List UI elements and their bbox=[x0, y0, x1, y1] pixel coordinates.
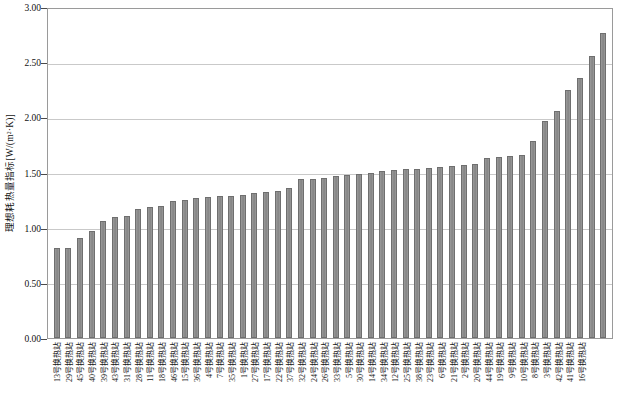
bar bbox=[519, 155, 525, 338]
y-axis-tickmark bbox=[41, 174, 47, 175]
x-axis-tick-label: 19号换热站 bbox=[494, 342, 505, 382]
x-axis-tick-label: 17号换热站 bbox=[260, 342, 271, 382]
bar bbox=[112, 217, 118, 338]
y-axis-tick-label: 0.50 bbox=[24, 279, 41, 289]
bar bbox=[310, 179, 316, 338]
x-axis-tick-label: 5号换热站 bbox=[342, 342, 353, 378]
x-axis-tick-label: 28号换热站 bbox=[132, 342, 143, 382]
bar-slot bbox=[574, 9, 586, 338]
bar-slot bbox=[353, 9, 365, 338]
bar bbox=[484, 158, 490, 338]
bar-slot bbox=[528, 9, 540, 338]
bar-slot bbox=[446, 9, 458, 338]
bar-chart: 理想耗热量指标[W/(m²·K)] 0.000.501.001.502.002.… bbox=[0, 0, 619, 411]
x-axis-tick: 46号换热站 bbox=[167, 340, 179, 411]
x-axis-tick: 11号换热站 bbox=[143, 340, 155, 411]
bar bbox=[449, 166, 455, 338]
bar-slot bbox=[272, 9, 284, 338]
bar-slot bbox=[86, 9, 98, 338]
bar-slot bbox=[284, 9, 296, 338]
x-axis-tick-label: 26号换热站 bbox=[319, 342, 330, 382]
bar bbox=[124, 216, 130, 338]
bar-slot bbox=[400, 9, 412, 338]
bar-slot bbox=[411, 9, 423, 338]
x-axis-tick-label: 40号换热站 bbox=[85, 342, 96, 382]
x-axis-tick: 29号换热站 bbox=[62, 340, 74, 411]
x-axis-tick: 28号换热站 bbox=[132, 340, 144, 411]
bar-slot bbox=[51, 9, 63, 338]
x-axis-tick-label: 35号换热站 bbox=[225, 342, 236, 382]
x-axis-tick-label: 22号换热站 bbox=[272, 342, 283, 382]
x-axis-tick: 2号换热站 bbox=[459, 340, 471, 411]
x-axis-tick: 6号换热站 bbox=[435, 340, 447, 411]
x-axis-tick-label: 34号换热站 bbox=[377, 342, 388, 382]
bar-slot bbox=[191, 9, 203, 338]
x-axis-tick: 36号换热站 bbox=[190, 340, 202, 411]
bar bbox=[426, 168, 432, 338]
bar bbox=[89, 231, 95, 338]
x-axis-tick-label: 14号换热站 bbox=[365, 342, 376, 382]
bar bbox=[170, 201, 176, 338]
bar-slot bbox=[202, 9, 214, 338]
plot-area bbox=[47, 8, 613, 339]
bars-layer bbox=[48, 9, 612, 338]
x-axis-tick: 20号换热站 bbox=[470, 340, 482, 411]
x-axis-tick-label: 32号换热站 bbox=[295, 342, 306, 382]
bar-slot bbox=[388, 9, 400, 338]
x-axis-tick-label: 11号换热站 bbox=[144, 342, 155, 382]
y-axis-tick-label: 2.00 bbox=[24, 113, 41, 123]
x-axis-tick: 37号换热站 bbox=[283, 340, 295, 411]
x-axis-tick-label: 46号换热站 bbox=[167, 342, 178, 382]
x-axis-tick bbox=[587, 340, 599, 411]
x-axis-tick: 7号换热站 bbox=[213, 340, 225, 411]
x-axis-tick-label: 38号换热站 bbox=[412, 342, 423, 382]
bar-slot bbox=[318, 9, 330, 338]
x-axis-tick: 27号换热站 bbox=[248, 340, 260, 411]
bar-slot bbox=[563, 9, 575, 338]
x-axis-tick: 43号换热站 bbox=[108, 340, 120, 411]
x-axis-tick-label: 30号换热站 bbox=[354, 342, 365, 382]
x-axis-tick: 5号换热站 bbox=[342, 340, 354, 411]
x-axis-tick: 9号换热站 bbox=[505, 340, 517, 411]
x-axis-tick-label: 36号换热站 bbox=[190, 342, 201, 382]
bar bbox=[182, 200, 188, 338]
x-axis-tick-label: 7号换热站 bbox=[214, 342, 225, 378]
bar-slot bbox=[225, 9, 237, 338]
x-axis-tick: 8号换热站 bbox=[529, 340, 541, 411]
x-axis-tick: 39号换热站 bbox=[97, 340, 109, 411]
bar-slot bbox=[167, 9, 179, 338]
bar bbox=[333, 176, 339, 338]
bar-slot bbox=[260, 9, 272, 338]
x-axis-tick: 4号换热站 bbox=[202, 340, 214, 411]
bar bbox=[158, 206, 164, 338]
x-axis-tick-label: 24号换热站 bbox=[307, 342, 318, 382]
x-axis-tick bbox=[599, 340, 611, 411]
bar-slot bbox=[423, 9, 435, 338]
x-axis-tick: 13号换热站 bbox=[50, 340, 62, 411]
x-axis-tick-label: 10号换热站 bbox=[517, 342, 528, 382]
bar-slot bbox=[539, 9, 551, 338]
bar-slot bbox=[121, 9, 133, 338]
x-axis-tick-label: 20号换热站 bbox=[471, 342, 482, 382]
bar-slot bbox=[516, 9, 528, 338]
x-axis-tick: 41号换热站 bbox=[564, 340, 576, 411]
x-axis-tick-label: 37号换热站 bbox=[284, 342, 295, 382]
x-axis-tick-label: 23号换热站 bbox=[424, 342, 435, 382]
y-axis-tickmark bbox=[41, 118, 47, 119]
bar bbox=[391, 170, 397, 338]
bar-slot bbox=[307, 9, 319, 338]
bar bbox=[321, 178, 327, 338]
bar bbox=[379, 171, 385, 338]
x-axis-tick-label: 33号换热站 bbox=[330, 342, 341, 382]
bar bbox=[577, 78, 583, 338]
x-axis-tick: 12号换热站 bbox=[388, 340, 400, 411]
x-axis-tick: 30号换热站 bbox=[353, 340, 365, 411]
bar bbox=[368, 173, 374, 339]
bar bbox=[472, 164, 478, 338]
bar bbox=[344, 175, 350, 338]
x-axis-tick: 40号换热站 bbox=[85, 340, 97, 411]
bar bbox=[286, 188, 292, 338]
bar-slot bbox=[156, 9, 168, 338]
x-axis-tick-label: 12号换热站 bbox=[389, 342, 400, 382]
x-axis-tick-label: 25号换热站 bbox=[400, 342, 411, 382]
